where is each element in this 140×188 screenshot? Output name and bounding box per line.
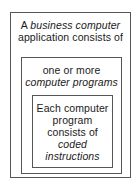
middle-line-2-emphasis: computer programs [22, 76, 121, 88]
middle-line-1: one or more [22, 64, 121, 76]
outer-line-2: application consists of [11, 31, 130, 43]
computer-programs-label: one or more computer programs [22, 64, 121, 88]
inner-line-3: consists of [33, 126, 112, 138]
computer-programs-box: one or more computer programs Each compu… [21, 57, 122, 174]
outer-line-1: A business computer [11, 19, 130, 31]
business-application-label: A business computer application consists… [11, 19, 130, 43]
inner-line-1: Each computer [33, 102, 112, 114]
outer-line-1-prefix: A [21, 19, 31, 31]
coded-instructions-label: Each computer program consists of coded … [33, 102, 112, 162]
outer-line-1-emphasis: business computer [30, 19, 120, 31]
coded-instructions-box: Each computer program consists of coded … [32, 95, 113, 168]
business-application-box: A business computer application consists… [10, 12, 131, 178]
inner-line-2: program [33, 114, 112, 126]
inner-line-4-emphasis: coded [33, 138, 112, 150]
inner-line-5-emphasis: instructions [33, 150, 112, 162]
diagram-canvas: A business computer application consists… [0, 0, 140, 188]
